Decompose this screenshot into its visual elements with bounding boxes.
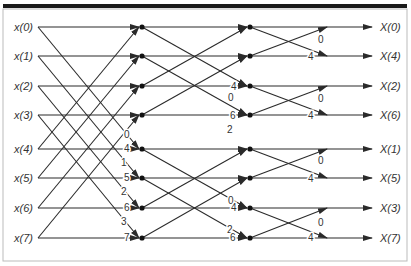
twiddle-stage1: 3: [121, 216, 127, 227]
outer-box: [3, 9, 407, 261]
input-label: x(7): [13, 232, 33, 244]
node: [139, 175, 144, 180]
twiddle-stage2: 6: [230, 110, 236, 121]
butterfly-edges: [38, 27, 372, 238]
twiddle-stage1: 1: [121, 157, 127, 168]
node: [247, 235, 252, 240]
twiddle-stage3: 0: [318, 34, 324, 45]
output-label: X(6): [379, 109, 401, 121]
input-label: x(6): [13, 202, 33, 214]
input-label: x(0): [13, 21, 33, 33]
twiddle-stage1: 5: [124, 172, 130, 183]
twiddle-stage2: 2: [227, 124, 233, 135]
top-rule: [3, 4, 407, 8]
input-label: x(4): [13, 143, 33, 155]
frame-border: [3, 4, 407, 261]
twiddle-stage2: 4: [231, 202, 237, 213]
output-label: X(1): [379, 143, 401, 155]
twiddle-stage1: 2: [121, 186, 127, 197]
output-label: X(3): [379, 202, 401, 214]
diagram-frame: x(0)X(0)x(1)X(4)x(2)X(2)x(3)X(6)x(4)X(1)…: [4, 4, 407, 259]
node: [247, 83, 252, 88]
twiddle-stage2: 4: [231, 81, 237, 92]
twiddle-stage1: 0: [124, 129, 130, 140]
node: [247, 24, 252, 29]
node: [139, 205, 144, 210]
fft-butterfly-diagram: x(0)X(0)x(1)X(4)x(2)X(2)x(3)X(6)x(4)X(1)…: [0, 0, 411, 266]
output-label: X(5): [379, 172, 401, 184]
twiddle-stage3: 4: [308, 110, 314, 121]
node: [247, 53, 252, 58]
node: [139, 235, 144, 240]
twiddle-stage2: 0: [228, 92, 234, 103]
twiddle-stage1: 7: [124, 232, 130, 243]
output-label: X(7): [379, 232, 401, 244]
input-label: x(1): [13, 50, 33, 62]
input-label: x(3): [13, 109, 33, 121]
output-label: X(4): [379, 50, 401, 62]
twiddle-stage3: 0: [318, 93, 324, 104]
twiddle-stage3: 4: [308, 51, 314, 62]
twiddle-stage1: 4: [124, 143, 130, 154]
twiddle-stage2: 6: [230, 232, 236, 243]
node: [139, 83, 144, 88]
node: [139, 112, 144, 117]
output-label: X(0): [379, 21, 401, 33]
node: [247, 205, 252, 210]
input-label: x(5): [13, 172, 33, 184]
node: [139, 146, 144, 151]
twiddle-stage3: 4: [308, 173, 314, 184]
node: [247, 112, 252, 117]
output-label: X(2): [379, 80, 401, 92]
twiddle-stage3: 0: [318, 155, 324, 166]
node: [139, 24, 144, 29]
twiddle-stage3: 0: [318, 217, 324, 228]
input-label: x(2): [13, 80, 33, 92]
twiddle-stage3: 4: [308, 232, 314, 243]
node: [139, 53, 144, 58]
node: [247, 175, 252, 180]
node: [247, 146, 252, 151]
twiddle-stage1: 6: [124, 202, 130, 213]
node-labels: x(0)X(0)x(1)X(4)x(2)X(2)x(3)X(6)x(4)X(1)…: [13, 21, 401, 244]
